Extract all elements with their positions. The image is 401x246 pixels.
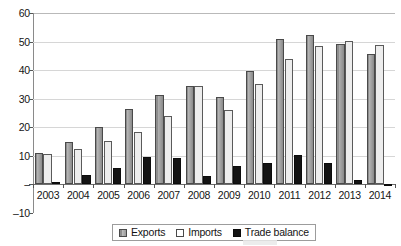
bar-balance-2008: [203, 176, 211, 185]
y-tick-label: 60: [4, 8, 30, 19]
x-tick-mark: [305, 184, 306, 188]
bar-exports-2010: [246, 71, 254, 184]
bar-balance-2004: [82, 175, 90, 184]
bar-exports-2009: [216, 97, 224, 185]
x-tick-mark: [63, 184, 64, 188]
legend-item-exports: Exports: [119, 227, 165, 238]
bar-imports-2009: [224, 110, 232, 184]
bar-exports-2003: [35, 153, 43, 184]
y-tick--10: –10: [0, 208, 30, 219]
bar-exports-2005: [95, 127, 103, 184]
x-tick-label-2005: 2005: [93, 190, 123, 201]
x-tick-mark: [154, 184, 155, 188]
bar-balance-2011: [294, 155, 302, 184]
y-tick-label: 40: [4, 65, 30, 76]
y-tick-label: 50: [4, 37, 30, 48]
bar-balance-2014: [384, 184, 392, 186]
x-tick-mark: [214, 184, 215, 188]
y-tick-40: 40: [0, 65, 30, 76]
bar-imports-2011: [285, 59, 293, 184]
y-tick-mark: [29, 13, 33, 14]
y-tick-mark: [29, 213, 33, 214]
legend-swatch-imports: [176, 229, 184, 237]
y-tick-10: 10: [0, 151, 30, 162]
x-tick-label-2012: 2012: [305, 190, 335, 201]
x-tick-mark: [395, 184, 396, 188]
y-tick-mark: [29, 127, 33, 128]
y-tick-label: –: [4, 179, 30, 190]
x-tick-label-2009: 2009: [214, 190, 244, 201]
legend-swatch-exports: [119, 229, 127, 237]
bar-balance-2010: [263, 163, 271, 184]
y-tick-50: 50: [0, 37, 30, 48]
bar-exports-2011: [276, 39, 284, 184]
bar-balance-2007: [173, 158, 181, 184]
bar-exports-2013: [336, 44, 344, 184]
bar-exports-2012: [306, 35, 314, 185]
bar-imports-2012: [315, 46, 323, 185]
bar-balance-2003: [52, 182, 60, 185]
x-tick-mark: [124, 184, 125, 188]
x-tick-mark: [244, 184, 245, 188]
legend-label-trade-balance: Trade balance: [245, 227, 309, 238]
x-tick-label-2007: 2007: [154, 190, 184, 201]
bar-balance-2013: [354, 180, 362, 184]
y-tick-label: 30: [4, 94, 30, 105]
gridline-50: [33, 42, 395, 43]
y-tick-label: –10: [4, 208, 30, 219]
scan-artifact: [243, 240, 277, 245]
bar-imports-2006: [134, 132, 142, 185]
x-tick-mark: [365, 184, 366, 188]
bar-exports-2006: [125, 109, 133, 184]
x-tick-mark: [274, 184, 275, 188]
bar-exports-2004: [65, 142, 73, 185]
y-tick-60: 60: [0, 8, 30, 19]
bar-imports-2014: [375, 45, 383, 184]
legend-swatch-trade-balance: [233, 229, 241, 237]
x-tick-label-2004: 2004: [63, 190, 93, 201]
bar-imports-2007: [164, 116, 172, 185]
x-tick-label-2006: 2006: [124, 190, 154, 201]
x-tick-mark: [93, 184, 94, 188]
y-tick-30: 30: [0, 94, 30, 105]
y-tick-mark: [29, 99, 33, 100]
y-tick-mark: [29, 156, 33, 157]
bar-exports-2007: [155, 95, 163, 184]
legend-item-trade-balance: Trade balance: [233, 227, 309, 238]
legend-item-imports: Imports: [176, 227, 222, 238]
x-tick-label-2010: 2010: [244, 190, 274, 201]
y-tick-0: –: [0, 179, 30, 190]
bar-balance-2005: [113, 168, 121, 184]
x-tick-mark: [335, 184, 336, 188]
y-tick-label: 20: [4, 122, 30, 133]
y-tick-20: 20: [0, 122, 30, 133]
y-tick-mark: [29, 42, 33, 43]
y-tick-label: 10: [4, 151, 30, 162]
bar-imports-2010: [255, 84, 263, 184]
chart-legend: Exports Imports Trade balance: [112, 224, 316, 241]
x-tick-label-2011: 2011: [274, 190, 304, 201]
bar-balance-2012: [324, 163, 332, 184]
x-tick-label-2014: 2014: [365, 190, 395, 201]
bar-balance-2006: [143, 157, 151, 184]
x-tick-label-2008: 2008: [184, 190, 214, 201]
x-tick-label-2013: 2013: [335, 190, 365, 201]
plot-top-border: [33, 13, 395, 14]
bar-imports-2005: [104, 141, 112, 184]
bar-imports-2008: [194, 86, 202, 184]
bar-imports-2003: [43, 154, 51, 184]
bar-imports-2004: [74, 149, 82, 184]
legend-label-exports: Exports: [131, 227, 165, 238]
bar-exports-2014: [367, 54, 375, 185]
bar-chart: 605040302010––10 20032004200520062007200…: [0, 0, 401, 246]
x-tick-label-2003: 2003: [33, 190, 63, 201]
y-tick-mark: [29, 70, 33, 71]
x-tick-mark-origin: [33, 184, 34, 188]
bar-balance-2009: [233, 166, 241, 184]
x-tick-mark: [184, 184, 185, 188]
bar-imports-2013: [345, 41, 353, 185]
legend-label-imports: Imports: [188, 227, 222, 238]
bar-exports-2008: [186, 86, 194, 185]
